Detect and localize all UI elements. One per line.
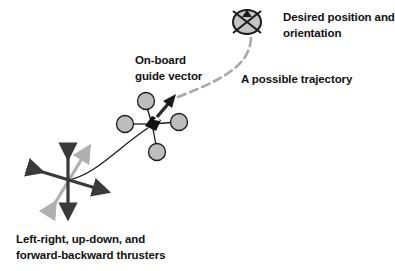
rotor-top — [138, 93, 155, 110]
guide-vector-arrow — [157, 94, 176, 117]
thrusters-line-1: Left-right, up-down, and — [16, 231, 166, 247]
thrusters-line-2: forward-backward thrusters — [16, 247, 166, 263]
desired-position-label: Desired position and orientation — [283, 9, 395, 41]
guide-line-1: On-board — [135, 52, 202, 68]
guide-vector-label: On-board guide vector — [135, 52, 202, 84]
history-path — [68, 128, 148, 180]
trajectory-label: A possible trajectory — [241, 71, 352, 87]
robot-icon — [117, 93, 188, 161]
desired-line-1: Desired position and — [283, 9, 395, 25]
trajectory-text: A possible trajectory — [241, 71, 352, 87]
desired-line-2: orientation — [283, 25, 395, 41]
thrusters-icon — [36, 152, 102, 212]
rotor-left — [117, 116, 134, 133]
guide-line-2: guide vector — [135, 68, 202, 84]
target-icon — [233, 10, 261, 34]
rotor-bottom — [149, 144, 166, 161]
thrusters-label: Left-right, up-down, and forward-backwar… — [16, 231, 166, 263]
rotor-right — [171, 114, 188, 131]
